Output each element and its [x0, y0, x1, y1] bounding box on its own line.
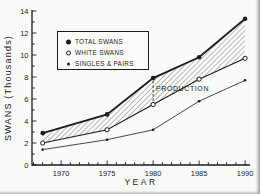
legend-item-singles-pairs: SINGLES & PAIRS — [65, 58, 148, 69]
data-point — [197, 77, 201, 81]
legend-label: WHITE SWANS — [75, 49, 124, 56]
y-tick-label-2: 2 — [24, 139, 28, 148]
y-axis-title: SWANS (Thousands) — [3, 35, 13, 141]
y-tick-label-0: 0 — [24, 161, 28, 170]
y-tick-label-4: 4 — [24, 117, 28, 126]
y-tick-label-10: 10 — [20, 51, 28, 60]
data-point — [152, 129, 155, 132]
legend-item-white-swans: WHITE SWANS — [65, 47, 148, 58]
legend-label: TOTAL SWANS — [75, 38, 123, 45]
swan-population-figure: 1970197519801985199002468101214 SWANS (T… — [0, 0, 260, 194]
data-point — [151, 102, 155, 106]
y-tick-label-14: 14 — [20, 7, 28, 16]
data-point — [106, 138, 109, 141]
y-tick-label-6: 6 — [24, 95, 28, 104]
small-dot-marker-icon — [65, 60, 75, 67]
data-point — [197, 55, 202, 60]
y-tick-label-12: 12 — [20, 29, 28, 38]
data-point — [105, 112, 110, 117]
data-point — [40, 131, 45, 136]
y-tick-label-8: 8 — [24, 73, 28, 82]
legend-box: TOTAL SWANS WHITE SWANS SINGLES & PAIRS — [57, 31, 149, 70]
filled-circle-marker-icon — [65, 38, 75, 45]
open-circle-marker-icon — [65, 49, 75, 56]
x-tick-label-1990: 1990 — [237, 169, 254, 178]
data-point — [151, 76, 156, 81]
x-tick-label-1985: 1985 — [191, 169, 208, 178]
production-annotation-label: PRODUCTION — [156, 85, 209, 92]
data-point — [244, 79, 247, 82]
data-point — [41, 148, 44, 151]
legend-label: SINGLES & PAIRS — [75, 60, 134, 67]
x-tick-label-1975: 1975 — [99, 169, 116, 178]
data-point — [243, 16, 248, 21]
x-tick-label-1970: 1970 — [53, 169, 70, 178]
legend-item-total-swans: TOTAL SWANS — [65, 36, 148, 47]
plot-area: 1970197519801985199002468101214 — [0, 0, 260, 194]
x-axis-title: YEAR — [124, 177, 157, 187]
data-point — [243, 56, 247, 60]
data-point — [198, 100, 201, 103]
data-point — [41, 141, 45, 145]
data-point — [105, 128, 109, 132]
